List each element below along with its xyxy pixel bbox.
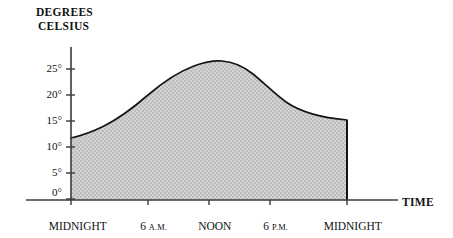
y-tick-label-10: 10° (28, 140, 62, 152)
x-tick-text: MIDNIGHT (324, 220, 382, 232)
x-tick-label-6pm: 6 P.M. (233, 208, 307, 238)
x-tick-label-midnight-end: MIDNIGHT (301, 208, 393, 238)
x-tick-text: MIDNIGHT (49, 220, 107, 232)
x-tick-text: 6 (263, 220, 272, 232)
chart-plot-area (0, 0, 453, 238)
x-tick-meridiem: P.M. (272, 223, 288, 232)
area-fill (71, 61, 347, 200)
x-tick-meridiem: A.M. (149, 223, 167, 232)
x-tick-text: NOON (198, 220, 231, 232)
x-tick-label-midnight-start: MIDNIGHT (26, 208, 118, 238)
y-axis-title-line1: DEGREES (36, 6, 93, 20)
y-tick-label-5: 5° (28, 166, 62, 178)
x-axis-title: TIME (402, 196, 434, 210)
y-tick-label-25: 25° (28, 62, 62, 74)
y-tick-label-15: 15° (28, 114, 62, 126)
y-axis-title-line2: CELSIUS (38, 20, 89, 34)
x-tick-text: 6 (140, 220, 149, 232)
temperature-chart-figure: DEGREES CELSIUS TIME 25° 20° 15° 10° 5° … (0, 0, 453, 238)
y-tick-label-20: 20° (28, 88, 62, 100)
y-tick-label-0: 0° (28, 186, 62, 198)
